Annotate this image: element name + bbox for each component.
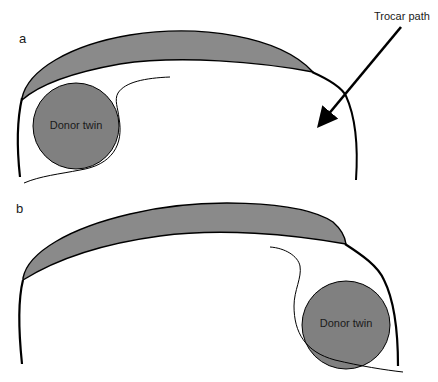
trocar-path-label: Trocar path	[374, 10, 430, 22]
panel-b-label: b	[16, 201, 23, 216]
panel-a-label: a	[19, 31, 27, 46]
donor-twin-label-a: Donor twin	[50, 119, 103, 131]
uterine-wall-left-a	[18, 98, 22, 177]
trocar-path-arrow	[322, 27, 401, 122]
donor-twin-label-b: Donor twin	[320, 317, 373, 329]
panel-a: a Donor twin Trocar path	[18, 10, 430, 183]
panel-b: b Donor twin	[16, 201, 403, 372]
placenta-b	[23, 203, 346, 280]
uterine-wall-left-b	[20, 280, 24, 364]
diagram-canvas: a Donor twin Trocar path b Donor twin	[0, 0, 438, 382]
